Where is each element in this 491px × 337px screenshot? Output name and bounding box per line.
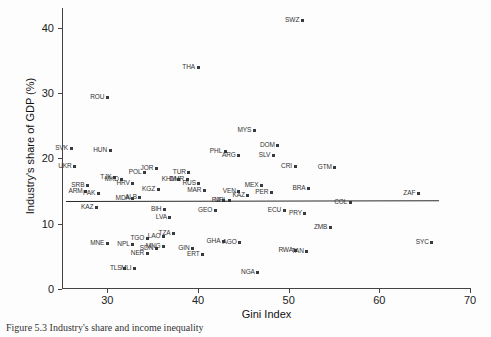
x-tick-mark (379, 289, 380, 293)
point-label: MNE (90, 238, 105, 245)
scatter-point (214, 209, 217, 212)
point-label: NER (131, 249, 145, 256)
point-label: MYS (237, 125, 252, 132)
point-label: BRA (293, 183, 307, 190)
point-label: RUS (182, 178, 196, 185)
point-label: KAZ (233, 191, 246, 198)
scatter-point (276, 144, 279, 147)
plot-area (62, 8, 470, 289)
x-axis-line (62, 288, 471, 289)
point-label: SLV (259, 151, 272, 158)
scatter-point (187, 171, 190, 174)
scatter-point (131, 197, 134, 200)
scatter-point (197, 66, 200, 69)
scatter-point (307, 187, 310, 190)
scatter-point (168, 216, 171, 219)
y-tick-mark (58, 28, 62, 29)
point-label: UKR (58, 161, 72, 168)
scatter-point (246, 194, 249, 197)
point-label: LVA (156, 213, 168, 220)
point-label: ERT (187, 249, 201, 256)
scatter-point (201, 253, 204, 256)
scatter-point (138, 196, 141, 199)
scatter-point (146, 252, 149, 255)
scatter-point (163, 208, 166, 211)
x-tick-mark (470, 289, 471, 293)
point-label: ZAF (403, 189, 416, 196)
point-label: PAK (83, 189, 96, 196)
scatter-point (329, 226, 332, 229)
scatter-point (143, 171, 146, 174)
point-label: THA (182, 62, 196, 69)
point-label: GHA (207, 236, 222, 243)
scatter-point (305, 250, 308, 253)
y-axis-label: Industry's share of GDP (%) (24, 31, 36, 261)
point-label: AGO (223, 238, 238, 245)
scatter-point (131, 243, 134, 246)
scatter-point (162, 235, 165, 238)
point-label: SVK (55, 144, 69, 151)
point-label: ROU (90, 93, 105, 100)
point-label: MAR (187, 186, 202, 193)
scatter-point (430, 241, 433, 244)
point-label: HUN (93, 145, 108, 152)
scatter-point (197, 182, 200, 185)
point-label: DOM (260, 141, 276, 148)
point-label: TGO (130, 234, 145, 241)
scatter-point (203, 189, 206, 192)
point-label: SWZ (285, 15, 300, 22)
y-tick-mark (58, 289, 62, 290)
y-tick-label: 0 (28, 283, 54, 295)
x-tick-mark (107, 289, 108, 293)
scatter-point (237, 154, 240, 157)
x-tick-label: 30 (101, 294, 113, 306)
scatter-point (294, 165, 297, 168)
scatter-point (146, 237, 149, 240)
scatter-point (272, 154, 275, 157)
point-label: TAN (292, 246, 305, 253)
scatter-point (172, 232, 175, 235)
point-label: ZMB (314, 223, 328, 230)
y-tick-mark (58, 224, 62, 225)
scatter-point (157, 188, 160, 191)
point-label: JOR (141, 163, 155, 170)
scatter-point (253, 129, 256, 132)
x-tick-mark (289, 289, 290, 293)
scatter-point (417, 192, 420, 195)
scatter-point (97, 192, 100, 195)
figure-caption: Figure 5.3 Industry's share and income i… (6, 322, 204, 333)
point-label: ECU (268, 206, 282, 213)
scatter-point (270, 191, 273, 194)
scatter-point (133, 267, 136, 270)
x-tick-label: 40 (192, 294, 204, 306)
scatter-point (260, 184, 263, 187)
scatter-point (86, 184, 89, 187)
scatter-point (333, 166, 336, 169)
point-label: KAZ (81, 202, 94, 209)
point-label: HRV (116, 178, 130, 185)
point-label: BIH (151, 204, 163, 211)
y-tick-mark (58, 93, 62, 94)
point-label: GTM (318, 162, 333, 169)
point-label: SYC (416, 238, 430, 245)
point-label: ARG (222, 151, 237, 158)
scatter-point (131, 182, 134, 185)
point-label: GEO (198, 206, 213, 213)
point-label: MLI (121, 264, 133, 271)
scatter-point (95, 206, 98, 209)
scatter-point (73, 165, 76, 168)
point-label: NPL (117, 240, 130, 247)
scatter-point (109, 149, 112, 152)
scatter-point (301, 19, 304, 22)
scatter-point (162, 245, 165, 248)
point-label: ARM (68, 187, 83, 194)
scatter-point (70, 147, 73, 150)
x-tick-mark (198, 289, 199, 293)
scatter-point (106, 96, 109, 99)
point-label: KGZ (142, 185, 156, 192)
scatter-point (303, 212, 306, 215)
scatter-point (155, 247, 158, 250)
x-tick-label: 60 (373, 294, 385, 306)
point-label: MDA (116, 194, 131, 201)
point-label: LAO (148, 232, 162, 239)
